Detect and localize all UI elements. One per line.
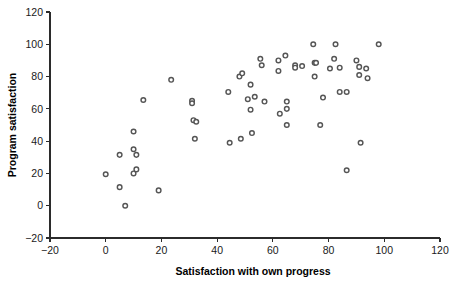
data-point	[190, 101, 195, 106]
data-point	[332, 57, 337, 62]
data-point	[328, 66, 333, 71]
data-point	[276, 58, 281, 63]
data-point	[344, 90, 349, 95]
x-tick-label-100: 100	[376, 244, 394, 256]
y-tick-label-40: 40	[31, 135, 43, 147]
data-point	[141, 98, 146, 103]
data-point	[248, 107, 253, 112]
data-point	[169, 78, 174, 83]
data-point	[314, 61, 319, 66]
data-point	[376, 42, 381, 47]
y-tick-label-120: 120	[25, 6, 43, 18]
x-tick-label-20: 20	[156, 244, 168, 256]
x-tick-label-0: 0	[103, 244, 109, 256]
x-axis-title: Satisfaction with own progress	[175, 265, 330, 277]
data-point	[293, 65, 298, 70]
data-point	[311, 42, 316, 47]
data-point	[344, 168, 349, 173]
data-point	[250, 131, 255, 136]
data-point	[131, 129, 136, 134]
data-point	[134, 153, 139, 158]
data-point	[248, 82, 253, 87]
x-tick-label-60: 60	[267, 244, 279, 256]
data-point	[245, 97, 250, 102]
data-point	[278, 111, 283, 116]
data-point	[364, 66, 369, 71]
y-tick-label-100: 100	[25, 38, 43, 50]
data-point	[365, 76, 370, 81]
data-point	[358, 140, 363, 145]
data-point	[333, 42, 338, 47]
data-point	[284, 107, 289, 112]
data-point	[194, 119, 199, 124]
scatter-plot-svg: −20020406080100120−20020406080100120 Sat…	[0, 0, 456, 284]
data-point	[134, 167, 139, 172]
data-point	[284, 99, 289, 104]
y-tick-label--20: −20	[25, 232, 43, 244]
y-tick-label-80: 80	[31, 70, 43, 82]
ticks-group	[46, 12, 440, 242]
data-point	[117, 153, 122, 158]
data-point	[258, 57, 263, 62]
data-point	[318, 123, 323, 128]
data-point	[103, 172, 108, 177]
data-point	[312, 74, 317, 79]
data-point	[337, 65, 342, 70]
x-tick-label-80: 80	[323, 244, 335, 256]
chart-figure: −20020406080100120−20020406080100120 Sat…	[0, 0, 456, 284]
x-tick-label-120: 120	[431, 244, 449, 256]
data-point	[300, 64, 305, 69]
y-tick-label-0: 0	[37, 199, 43, 211]
data-point	[239, 136, 244, 141]
data-point	[321, 95, 326, 100]
y-axis-title: Program satisfaction	[6, 73, 18, 177]
data-point	[283, 53, 288, 58]
data-point	[117, 185, 122, 190]
data-point	[123, 203, 128, 208]
axes-group	[50, 12, 440, 238]
data-point	[131, 147, 136, 152]
data-point	[354, 58, 359, 63]
data-point	[276, 69, 281, 74]
data-point	[357, 65, 362, 70]
x-tick-label--20: −20	[41, 244, 59, 256]
data-point	[226, 90, 231, 95]
data-point	[252, 94, 257, 99]
data-point	[259, 63, 264, 68]
data-point	[262, 99, 267, 104]
data-point	[337, 90, 342, 95]
y-tick-label-20: 20	[31, 167, 43, 179]
data-point	[227, 140, 232, 145]
data-point	[240, 71, 245, 76]
data-point	[284, 123, 289, 128]
tick-labels-group: −20020406080100120−20020406080100120	[25, 6, 449, 256]
data-point	[193, 136, 198, 141]
y-tick-label-60: 60	[31, 103, 43, 115]
data-point	[156, 188, 161, 193]
data-points-group	[103, 42, 381, 208]
x-tick-label-40: 40	[211, 244, 223, 256]
data-point	[357, 73, 362, 78]
